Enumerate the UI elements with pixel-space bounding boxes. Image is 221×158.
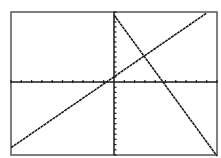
plot-line-y2 bbox=[114, 15, 217, 156]
axes bbox=[11, 12, 217, 155]
plot-line-y1 bbox=[11, 13, 207, 148]
graph-screen bbox=[0, 0, 221, 158]
